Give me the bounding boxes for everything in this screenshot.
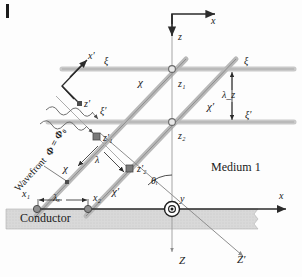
point-label-z2-prime: z′₂ <box>137 164 147 174</box>
medium-label: Medium 1 <box>211 161 261 173</box>
point-label-z1: z₁ <box>178 79 185 89</box>
diagram-canvas <box>0 0 302 277</box>
ray-label-chi-lower: χ <box>63 163 68 174</box>
wavefront-label-xi-upper-left: ξ <box>104 56 108 66</box>
marker-z2-prime <box>126 165 133 172</box>
marker-z1 <box>169 66 176 73</box>
axis-label-z-prime-inset: z′ <box>84 99 90 109</box>
ray-label-chi-prime-upper: χ′ <box>207 101 214 112</box>
wavefront-label-xi-prime-lower-right: ξ′ <box>245 110 251 120</box>
measure-label-lambda-x: λₓ <box>53 193 60 203</box>
axis-label-x-top: x <box>211 16 215 26</box>
wavefront-label-xi-upper-right: ξ <box>244 56 248 66</box>
axis-label-z-top: z <box>178 32 182 42</box>
point-label-x2: x₂ <box>93 193 101 203</box>
measure-label-lambda-z: λ_z <box>222 90 235 100</box>
point-label-z1-prime: z′₁ <box>103 133 113 143</box>
figure-root: x z x′ z′ ξ ξ ξ′ ξ′ χ χ′ χ χ′ z₁ z₂ z′₁ … <box>0 0 302 277</box>
marker-y-out-of-page <box>165 202 180 217</box>
measure-label-lambda: λ <box>95 155 99 165</box>
marker-z1-prime <box>93 133 100 140</box>
wavefront-label-xi-prime-lower-left: ξ′ <box>100 106 106 116</box>
marker-x2 <box>84 205 91 212</box>
point-label-z2: z₂ <box>178 131 185 141</box>
axis-label-Z-prime: Z′ <box>237 254 246 265</box>
conductor-label: Conductor <box>20 212 71 224</box>
axis-label-x-right: x <box>279 191 283 201</box>
axis-label-Z-down: Z <box>179 255 185 266</box>
axis-label-x-prime-inset: x′ <box>88 51 95 61</box>
axis-label-y-origin: y <box>180 194 184 204</box>
angle-label-theta-i: θᵢ <box>151 176 158 186</box>
marker-z2 <box>169 119 176 126</box>
axis-Z-prime <box>100 133 243 256</box>
point-label-x1: x₁ <box>22 189 30 199</box>
ray-label-chi-prime-lower: χ′ <box>112 186 119 197</box>
ray-label-chi-upper: χ <box>138 77 143 88</box>
